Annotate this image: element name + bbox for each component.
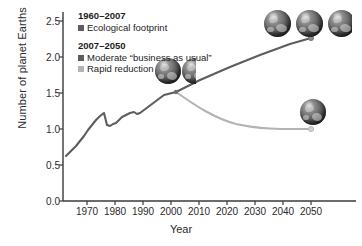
globe-icon	[264, 10, 291, 37]
globe-icon	[300, 99, 326, 125]
globe-icon	[296, 10, 323, 37]
legend-item-ecological-footprint: Ecological footprint	[78, 22, 212, 33]
legend-group-2-heading: 2007–2050	[78, 40, 212, 51]
globe-partial-clip	[328, 10, 352, 37]
globe-icon	[328, 10, 352, 37]
legend-swatch-icon	[78, 55, 84, 61]
legend-swatch-icon	[78, 25, 84, 31]
branch-point-2007-marker	[174, 90, 178, 94]
chart-legend: 1960–2007 Ecological footprint 2007–2050…	[78, 10, 212, 74]
series-ecological-footprint	[66, 92, 176, 156]
legend-swatch-icon	[78, 66, 84, 72]
series-rapid-reduction	[176, 92, 311, 129]
legend-item-label: Moderate “business as usual”	[87, 52, 212, 63]
legend-item-label: Ecological footprint	[87, 22, 167, 33]
endpoint-marker-rapid-reduction	[308, 126, 313, 131]
legend-item-business-as-usual: Moderate “business as usual”	[78, 52, 212, 63]
legend-group-1-heading: 1960–2007	[78, 10, 212, 21]
ecological-footprint-chart: Number of planet Earths 2.5 2.0 1.5 1.0 …	[0, 0, 362, 246]
legend-item-rapid-reduction: Rapid reduction	[78, 63, 212, 74]
legend-item-label: Rapid reduction	[87, 63, 154, 74]
